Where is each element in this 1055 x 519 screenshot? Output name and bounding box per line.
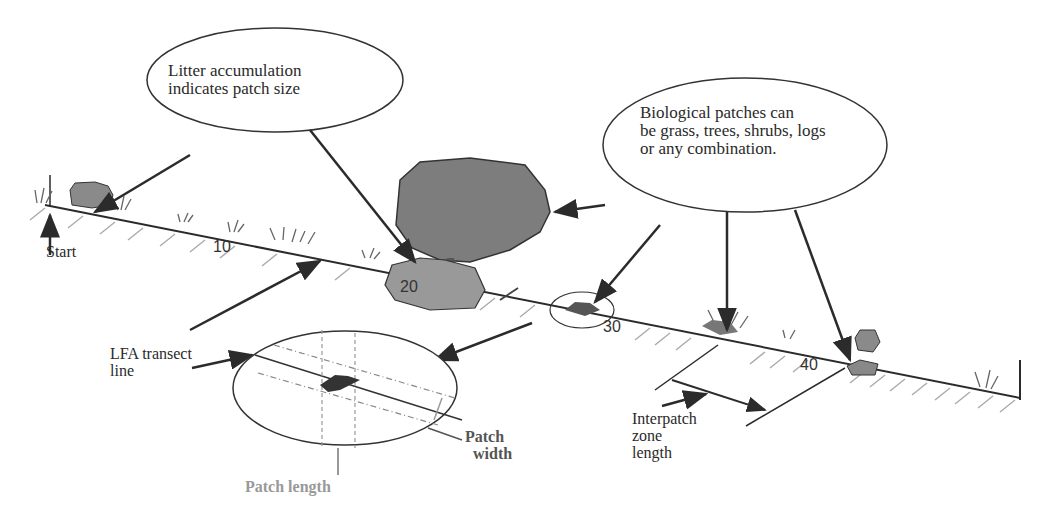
transect-diagram <box>0 0 1055 519</box>
litter-callout-text: Litter accumulation indicates patch size <box>168 62 302 98</box>
transect-label: LFA transect line <box>110 345 192 379</box>
bio-callout-line: Biological patches can <box>640 103 794 122</box>
bio-arrow-tree <box>555 205 605 212</box>
litter-callout-line: indicates patch size <box>168 79 300 98</box>
interpatch-line: Interpatch <box>632 410 697 427</box>
bio-callout-line: be grass, trees, shrubs, logs <box>640 121 826 140</box>
tree-canopy-icon <box>396 158 550 262</box>
interpatch-line: zone <box>632 427 662 444</box>
bio-callout-line: or any combination. <box>640 139 776 158</box>
small-litter-icon <box>847 360 878 375</box>
patch-width-label: Patch width <box>465 428 512 462</box>
patch-width-line: Patch <box>465 428 504 445</box>
tick-20: 20 <box>400 278 418 296</box>
biological-callout-text: Biological patches can be grass, trees, … <box>640 104 826 158</box>
small-tree-icon <box>855 330 880 352</box>
transect-label-line: line <box>110 362 134 379</box>
zoom-arrow <box>435 323 532 360</box>
tick-40: 40 <box>800 356 818 374</box>
interpatch-line: length <box>632 444 672 461</box>
patch-detail-ellipse <box>233 331 457 445</box>
bio-arrow-small-tree <box>795 210 850 360</box>
start-label: Start <box>46 243 76 260</box>
transect-arrow <box>190 261 320 330</box>
transect-label-line: LFA transect <box>110 345 192 362</box>
litter-arrow-start <box>95 155 190 212</box>
patch-length-label: Patch length <box>245 478 331 495</box>
patch-width-line: width <box>465 445 512 462</box>
litter-callout-line: Litter accumulation <box>168 61 302 80</box>
interpatch-label-arrow <box>662 394 706 406</box>
tick-30: 30 <box>603 318 621 336</box>
interpatch-label: Interpatch zone length <box>632 410 697 461</box>
bio-arrow-patch <box>595 225 660 302</box>
interpatch-dimension <box>672 380 765 410</box>
tick-10: 10 <box>213 238 231 256</box>
